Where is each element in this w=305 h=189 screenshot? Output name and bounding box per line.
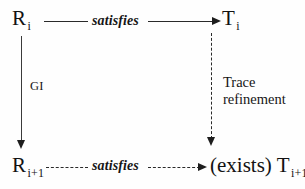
node-r-i-subscript: i <box>26 19 31 33</box>
bottom-edge-line-right-segment <box>148 167 200 168</box>
node-r-i-plus-1-base: R <box>12 153 26 177</box>
node-t-i-base: T <box>222 6 235 30</box>
bottom-edge-line-left-segment <box>46 167 88 168</box>
node-r-i-plus-1-subscript: i+1 <box>26 166 44 180</box>
node-t-i-subscript: i <box>235 19 240 33</box>
bottom-edge-label-satisfies: satisfies <box>92 158 139 174</box>
left-edge-arrowhead-icon <box>17 140 25 149</box>
top-edge-arrowhead-icon <box>212 17 221 25</box>
node-r-i: Ri <box>12 8 31 32</box>
bottom-edge-arrowhead-icon <box>198 163 207 171</box>
node-r-i-plus-1: Ri+1 <box>12 155 44 179</box>
right-edge-label-line-2: refinement <box>223 91 286 108</box>
left-edge-line <box>21 36 22 142</box>
node-t-i-plus-1: (exists) Ti+1 <box>210 155 305 179</box>
top-edge-line-left-segment <box>44 21 88 22</box>
right-edge-label-line-1: Trace <box>223 74 286 91</box>
left-edge-label-gi: GI <box>30 79 44 94</box>
refinement-diagram: Ri Ti Ri+1 (exists) Ti+1 satisfies GI Tr… <box>0 0 305 189</box>
node-r-i-base: R <box>12 6 26 30</box>
right-edge-dashed-line <box>211 33 212 139</box>
node-t-i-plus-1-subscript: i+1 <box>290 166 305 180</box>
top-edge-label-satisfies: satisfies <box>92 13 139 29</box>
right-edge-arrowhead-icon <box>207 137 215 146</box>
top-edge-line-right-segment <box>148 21 216 22</box>
node-t-i: Ti <box>222 8 240 32</box>
right-edge-label-trace-refinement: Trace refinement <box>223 74 286 108</box>
node-t-i-plus-1-base: (exists) T <box>210 153 290 177</box>
